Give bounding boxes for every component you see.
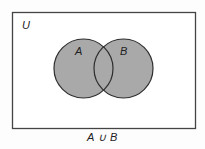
universe-label: U	[22, 19, 30, 31]
venn-diagram: U A B	[0, 0, 205, 149]
set-a-label: A	[74, 45, 82, 57]
diagram-caption: A ∪ B	[0, 131, 205, 144]
set-b-label: B	[120, 45, 127, 57]
